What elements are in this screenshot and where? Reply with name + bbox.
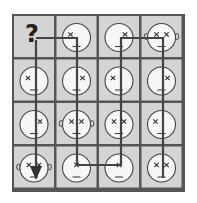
face-icon	[105, 111, 133, 139]
face-icon	[105, 67, 133, 95]
face-icon	[148, 67, 176, 95]
grid-cell	[99, 16, 139, 57]
face-icon	[20, 111, 48, 139]
head-circle	[105, 111, 133, 139]
face-icon	[105, 154, 133, 182]
grid-cell	[142, 60, 182, 101]
grid-cell	[14, 60, 54, 101]
face-icon	[148, 111, 176, 139]
grid-cell	[142, 103, 182, 144]
question-mark: ?	[25, 20, 39, 48]
face-path-puzzle: ?	[0, 0, 197, 203]
grid-cell	[99, 147, 139, 188]
grid-cell	[142, 16, 182, 57]
face-icon	[148, 154, 176, 182]
head-circle	[105, 67, 133, 95]
grid-cell	[142, 147, 182, 188]
grid-cell	[99, 103, 139, 144]
head-circle	[148, 67, 176, 95]
head-circle	[20, 67, 48, 95]
grid-cell	[99, 60, 139, 101]
grid-cell	[14, 103, 54, 144]
head-circle	[20, 111, 48, 139]
head-circle	[148, 154, 176, 182]
face-icon	[20, 67, 48, 95]
head-circle	[148, 111, 176, 139]
head-circle	[105, 154, 133, 182]
